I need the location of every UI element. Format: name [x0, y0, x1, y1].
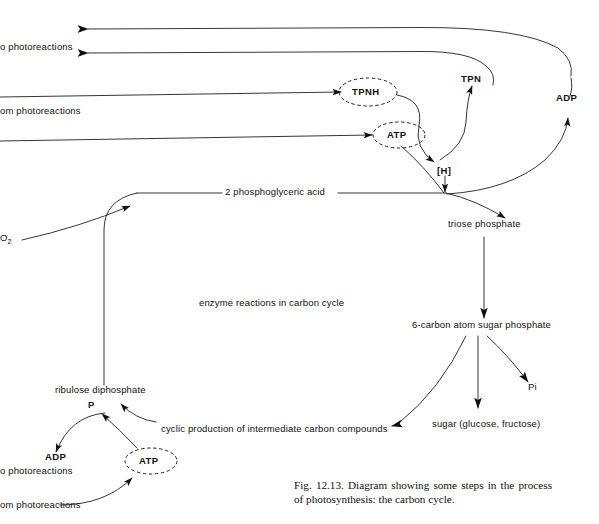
- edge-junction-to-triose: [446, 193, 505, 218]
- edge-hydrogen-to-tpn: [440, 86, 472, 160]
- label-tpn: TPN: [461, 74, 481, 84]
- edge-six-carbon-to-cyclic: [392, 336, 466, 426]
- label-cyclic-production: cyclic production of intermediate carbon…: [161, 424, 388, 434]
- figure-canvas: o photoreactions om photoreactions TPNH …: [0, 0, 599, 524]
- label-atp-bottom: ATP: [139, 456, 159, 466]
- label-to-photoreactions-bottom: o photoreactions: [0, 466, 73, 476]
- carbon-cycle-diagram: [0, 0, 599, 524]
- label-tpnh: TPNH: [352, 87, 379, 97]
- edge-six-carbon-to-pi: [487, 336, 528, 382]
- edge-co2-into-cycle: [22, 206, 130, 240]
- co2-subscript: 2: [8, 237, 12, 246]
- label-six-carbon-sugar-phosphate: 6-carbon atom sugar phosphate: [412, 320, 551, 330]
- edge-tpn-to-photoreactions: [88, 51, 494, 85]
- edge-atp-to-p: [102, 414, 137, 448]
- label-from-photoreactions-top: om photoreactions: [0, 106, 81, 116]
- label-to-photoreactions-top: o photoreactions: [0, 42, 73, 52]
- co2-text: O: [0, 232, 8, 243]
- label-enzyme-reactions-note: enzyme reactions in carbon cycle: [199, 298, 344, 308]
- label-adp-bottom: ADP: [45, 452, 66, 462]
- label-ribulose-diphosphate: ribulose diphosphate: [55, 385, 146, 395]
- label-phosphoglyceric-acid: 2 phosphoglyceric acid: [225, 187, 325, 197]
- label-sugar: sugar (glucose, fructose): [432, 419, 540, 429]
- edge-cyclic-to-ribulose: [121, 404, 156, 422]
- label-co2: O2: [0, 233, 12, 245]
- edge-p-to-adp: [56, 413, 105, 452]
- edge-ribulose-to-pga: [104, 193, 137, 385]
- edge-photoreactions-to-tpnh: [0, 92, 341, 97]
- label-pi: Pi: [528, 382, 537, 392]
- label-from-photoreactions-bottom: om photoreactions: [0, 500, 81, 510]
- label-phosphate-p: P: [88, 400, 95, 410]
- figure-caption: Fig. 12.13. Diagram showing some steps i…: [294, 479, 552, 506]
- label-adp-top: ADP: [556, 93, 577, 103]
- label-hydrogen: [H]: [437, 166, 451, 176]
- edge-photoreactions-to-atp: [0, 135, 372, 141]
- label-atp-top: ATP: [387, 130, 407, 140]
- label-triose-phosphate: triose phosphate: [448, 219, 521, 229]
